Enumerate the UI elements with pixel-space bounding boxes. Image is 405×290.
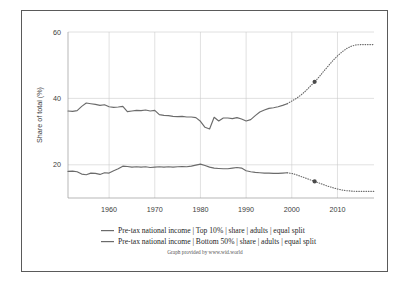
y-axis-tick-labels: 204060: [53, 28, 61, 170]
plot-frame: [68, 32, 374, 198]
x-tick-label: 2000: [284, 205, 300, 214]
x-tick-label: 1960: [101, 205, 117, 214]
attribution-text: Graph provided by www.wid.world: [167, 249, 243, 255]
series-paths: [68, 45, 374, 192]
chart-figure: 204060 196019701980199020002010 Share of…: [21, 10, 388, 272]
series-line-projected-1: [287, 173, 374, 192]
series-line-solid-0: [68, 103, 287, 129]
x-tick-label: 1990: [238, 205, 254, 214]
series-data-marker: [313, 179, 317, 183]
x-tick-label: 2010: [329, 205, 345, 214]
series-data-marker: [313, 80, 317, 84]
y-tick-label: 20: [53, 160, 61, 169]
attribution-label-text: Graph provided by www.wid.world: [167, 249, 243, 255]
legend-item-label: Pre-tax national income | Bottom 50% | s…: [118, 237, 317, 246]
series-line-projected-0: [287, 45, 374, 104]
line-chart: 204060 196019701980199020002010 Share of…: [22, 11, 389, 273]
chart-legend: Pre-tax national income | Top 10% | shar…: [101, 226, 317, 246]
y-axis-title: Share of total (%): [35, 87, 44, 143]
plot-area-wrapper: 204060 196019701980199020002010 Share of…: [22, 11, 389, 273]
y-tick-label: 40: [53, 94, 61, 103]
x-axis-tick-labels: 196019701980199020002010: [101, 205, 345, 214]
y-tick-label: 60: [53, 28, 61, 37]
x-tick-label: 1980: [192, 205, 208, 214]
x-tick-label: 1970: [147, 205, 163, 214]
legend-item-label: Pre-tax national income | Top 10% | shar…: [118, 226, 306, 235]
series-line-solid-1: [68, 164, 287, 175]
y-axis-title-text: Share of total (%): [35, 87, 44, 143]
plot-axis-lines: [68, 32, 374, 198]
grid-lines: [68, 32, 374, 198]
